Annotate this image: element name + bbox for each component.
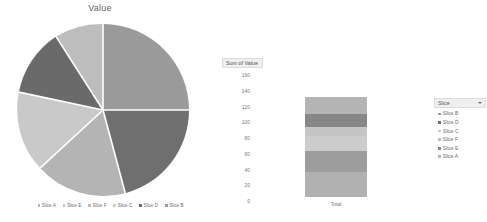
slice-legend-item-slice-c[interactable]: Slice C	[438, 129, 486, 134]
pie-legend-item[interactable]: Slice D	[139, 203, 158, 208]
legend-swatch-slice-c	[438, 130, 441, 133]
legend-swatch-slice-e	[63, 204, 66, 207]
slice-legend-panel: Slice Slice B Slice D Slice C Slice F	[434, 98, 486, 159]
bar-segment-slice-d[interactable]	[305, 151, 367, 172]
legend-swatch-slice-f	[88, 204, 91, 207]
axis-tick-label: 0	[220, 199, 250, 204]
legend-swatch-slice-b	[165, 204, 168, 207]
legend-swatch-slice-c	[113, 204, 116, 207]
bar-category-label: Total	[305, 201, 367, 207]
value-axis-header[interactable]: Sum of Value	[222, 58, 263, 68]
axis-tick-label: 100	[220, 120, 250, 125]
legend-swatch-slice-f	[438, 138, 441, 141]
legend-swatch-slice-d	[438, 121, 441, 124]
value-axis-ticks: 160 140 120 100 80 60 40 20 0	[220, 75, 250, 201]
bar-segment-slice-b[interactable]	[305, 172, 367, 197]
pie-legend-item[interactable]: Slice F	[88, 203, 106, 208]
bar-segment-slice-f[interactable]	[305, 127, 367, 136]
bar-segment-slice-e[interactable]	[305, 114, 367, 127]
pie-legend-label: Slice E	[67, 203, 81, 208]
pie-chart-legend: Slice A Slice E Slice F Slice C Slice D …	[8, 203, 213, 208]
axis-tick-label: 60	[220, 151, 250, 156]
legend-swatch-slice-e	[438, 147, 441, 150]
slice-legend-label: Slice D	[443, 120, 459, 125]
slice-legend-label: Slice C	[443, 129, 459, 134]
axis-tick-label: 120	[220, 104, 250, 109]
legend-swatch-slice-a	[438, 155, 441, 158]
legend-swatch-slice-b	[438, 113, 441, 116]
slice-legend-list: Slice B Slice D Slice C Slice F Slice E …	[434, 111, 486, 159]
pie-legend-label: Slice F	[92, 203, 106, 208]
pie-chart-panel: Value	[0, 0, 215, 222]
pie-chart-title: Value	[0, 3, 200, 13]
pie-legend-item[interactable]: Slice A	[38, 203, 56, 208]
value-axis-panel: Sum of Value 160 140 120 100 80 60 40 20…	[220, 58, 282, 208]
chevron-down-icon[interactable]	[478, 102, 482, 104]
stacked-bar-column	[305, 97, 367, 197]
axis-tick-label: 140	[220, 88, 250, 93]
slice-legend-label: Slice F	[443, 137, 458, 142]
slice-legend-item-slice-d[interactable]: Slice D	[438, 120, 486, 125]
slice-legend-item-slice-e[interactable]: Slice E	[438, 146, 486, 151]
chart-canvas: Value	[0, 0, 487, 222]
pie-chart-graphic	[12, 18, 202, 198]
pie-legend-item[interactable]: Slice B	[165, 203, 184, 208]
axis-tick-label: 160	[220, 73, 250, 78]
slice-legend-label: Slice B	[443, 111, 459, 116]
slice-legend-header[interactable]: Slice	[434, 98, 486, 108]
axis-tick-label: 20	[220, 183, 250, 188]
bar-segment-slice-a[interactable]	[305, 97, 367, 114]
pie-slice-b[interactable]	[103, 24, 189, 110]
slice-legend-label: Slice A	[443, 154, 458, 159]
pie-legend-label: Slice B	[169, 203, 183, 208]
slice-legend-item-slice-f[interactable]: Slice F	[438, 137, 486, 142]
pie-legend-label: Slice D	[143, 203, 158, 208]
pie-legend-label: Slice A	[42, 203, 56, 208]
slice-legend-label: Slice E	[443, 146, 459, 151]
legend-swatch-slice-a	[38, 204, 41, 207]
slice-legend-item-slice-b[interactable]: Slice B	[438, 111, 486, 116]
slice-legend-header-label: Slice	[438, 101, 450, 106]
legend-swatch-slice-d	[139, 204, 142, 207]
pie-legend-label: Slice C	[118, 203, 133, 208]
axis-tick-label: 40	[220, 167, 250, 172]
pie-legend-item[interactable]: Slice E	[63, 203, 82, 208]
slice-legend-item-slice-a[interactable]: Slice A	[438, 154, 486, 159]
stacked-bar-panel: Total	[290, 55, 420, 215]
axis-tick-label: 80	[220, 136, 250, 141]
bar-segment-slice-c[interactable]	[305, 136, 367, 151]
pie-legend-item[interactable]: Slice C	[113, 203, 132, 208]
